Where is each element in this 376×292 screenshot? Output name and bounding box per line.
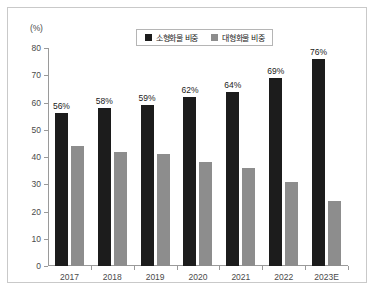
x-tick-label-2021: 2021 xyxy=(231,272,250,282)
legend-label-large-cargo: 대형화물 비중 xyxy=(222,32,264,43)
x-tick-label-2022: 2022 xyxy=(274,272,293,282)
chart-frame: (%) 소형화물 비중 대형화물 비중 01020304050607080 56… xyxy=(7,7,367,283)
y-tick-label-60: 60 xyxy=(32,98,41,108)
legend-swatch-large-cargo xyxy=(211,34,218,41)
x-tick xyxy=(177,266,178,270)
x-tick-label-2019: 2019 xyxy=(146,272,165,282)
x-tick xyxy=(219,266,220,270)
x-tick-label-2020: 2020 xyxy=(189,272,208,282)
plot-area: 01020304050607080 56%201758%201859%20196… xyxy=(48,48,348,266)
bar-large-cargo[interactable] xyxy=(242,168,255,266)
bar-value-label: 56% xyxy=(53,101,70,111)
y-tick-label-40: 40 xyxy=(32,152,41,162)
x-tick xyxy=(91,266,92,270)
bar-value-label: 64% xyxy=(224,80,241,90)
bar-large-cargo[interactable] xyxy=(328,201,341,266)
bar-large-cargo[interactable] xyxy=(285,182,298,266)
y-axis-unit-label: (%) xyxy=(30,23,43,33)
y-tick-label-20: 20 xyxy=(32,207,41,217)
y-tick-label-10: 10 xyxy=(32,234,41,244)
bar-small-cargo[interactable]: 56% xyxy=(55,113,68,266)
legend-item-large-cargo[interactable]: 대형화물 비중 xyxy=(211,32,264,43)
x-tick-label-2023E: 2023E xyxy=(314,272,339,282)
chart-legend: 소형화물 비중 대형화물 비중 xyxy=(136,29,273,46)
bar-value-label: 76% xyxy=(310,47,327,57)
bar-large-cargo[interactable] xyxy=(71,146,84,266)
y-tick-0 xyxy=(44,266,48,267)
legend-item-small-cargo[interactable]: 소형화물 비중 xyxy=(145,32,198,43)
bar-small-cargo[interactable]: 64% xyxy=(226,92,239,266)
bar-large-cargo[interactable] xyxy=(157,154,170,266)
bar-value-label: 59% xyxy=(139,93,156,103)
y-tick-label-0: 0 xyxy=(36,261,41,271)
x-tick-label-2017: 2017 xyxy=(60,272,79,282)
bar-small-cargo[interactable]: 76% xyxy=(312,59,325,266)
legend-swatch-small-cargo xyxy=(145,34,152,41)
legend-label-small-cargo: 소형화물 비중 xyxy=(156,32,198,43)
bar-small-cargo[interactable]: 59% xyxy=(141,105,154,266)
bar-value-label: 58% xyxy=(96,96,113,106)
bar-small-cargo[interactable]: 58% xyxy=(98,108,111,266)
bar-value-label: 62% xyxy=(181,85,198,95)
bar-group: 59%2019 xyxy=(134,48,177,266)
x-tick xyxy=(262,266,263,270)
bar-group: 76%2023E xyxy=(305,48,348,266)
bar-group: 56%2017 xyxy=(48,48,91,266)
x-tick xyxy=(305,266,306,270)
bar-value-label: 69% xyxy=(267,66,284,76)
y-tick-label-80: 80 xyxy=(32,43,41,53)
bar-group: 64%2021 xyxy=(219,48,262,266)
bar-large-cargo[interactable] xyxy=(199,162,212,266)
bar-group: 58%2018 xyxy=(91,48,134,266)
bar-group: 69%2022 xyxy=(262,48,305,266)
bar-large-cargo[interactable] xyxy=(114,152,127,266)
y-tick-label-30: 30 xyxy=(32,179,41,189)
bar-small-cargo[interactable]: 69% xyxy=(269,78,282,266)
x-tick-label-2018: 2018 xyxy=(103,272,122,282)
x-tick xyxy=(348,266,349,270)
x-tick xyxy=(134,266,135,270)
bar-small-cargo[interactable]: 62% xyxy=(183,97,196,266)
y-tick-label-70: 70 xyxy=(32,70,41,80)
y-tick-label-50: 50 xyxy=(32,125,41,135)
bar-group: 62%2020 xyxy=(177,48,220,266)
